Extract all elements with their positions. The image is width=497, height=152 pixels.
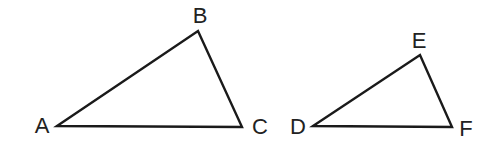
vertex-label-f: F <box>459 116 472 141</box>
triangle-abc <box>57 31 242 127</box>
similar-triangles-diagram: A B C D E F <box>0 0 497 152</box>
vertex-label-c: C <box>252 114 268 139</box>
triangle-def <box>313 55 452 127</box>
vertex-label-d: D <box>290 114 306 139</box>
vertex-label-a: A <box>35 113 50 138</box>
vertex-label-e: E <box>412 28 427 53</box>
vertex-label-b: B <box>193 3 208 28</box>
diagram-svg: A B C D E F <box>0 0 497 152</box>
